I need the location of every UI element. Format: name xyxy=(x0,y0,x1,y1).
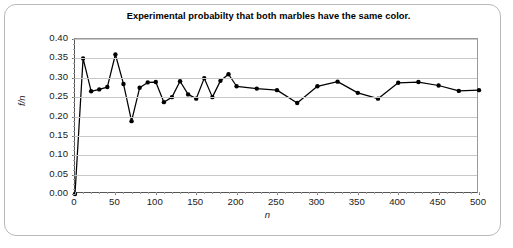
y-axis-minor-tick xyxy=(73,179,75,180)
x-axis-minor-tick xyxy=(99,192,100,194)
y-axis-minor-tick xyxy=(73,175,75,176)
y-axis-tick-label: 0.40 xyxy=(34,32,68,43)
y-axis-minor-tick xyxy=(73,131,75,132)
data-point-marker xyxy=(226,72,230,76)
data-point-marker xyxy=(178,79,182,83)
x-axis-minor-tick xyxy=(253,192,254,194)
y-axis-minor-tick xyxy=(73,44,75,45)
x-axis-tick-label: 500 xyxy=(458,196,498,207)
x-axis-minor-tick xyxy=(220,192,221,194)
x-axis-tick-label: 100 xyxy=(135,196,175,207)
x-axis-minor-tick xyxy=(317,192,318,194)
data-point-marker xyxy=(129,119,133,123)
y-axis-minor-tick xyxy=(73,146,75,147)
x-axis-minor-tick xyxy=(180,192,181,194)
x-axis-minor-tick xyxy=(107,192,108,194)
x-axis-minor-tick xyxy=(148,192,149,194)
x-axis-minor-tick xyxy=(382,192,383,194)
data-point-marker xyxy=(89,89,93,93)
y-axis-minor-tick xyxy=(73,155,75,156)
data-point-marker xyxy=(146,80,150,84)
x-axis-minor-tick xyxy=(164,192,165,194)
y-axis-minor-tick xyxy=(73,73,75,74)
data-point-marker xyxy=(416,80,420,84)
x-axis-tick-label: 350 xyxy=(337,196,377,207)
x-axis-minor-tick xyxy=(366,192,367,194)
data-point-marker xyxy=(457,89,461,93)
x-axis-minor-tick xyxy=(156,192,157,194)
y-axis-minor-tick xyxy=(73,117,75,118)
x-axis-minor-tick xyxy=(342,192,343,194)
y-axis-minor-tick xyxy=(73,92,75,93)
series-line xyxy=(75,55,479,195)
x-axis-minor-tick xyxy=(115,192,116,194)
y-axis-minor-tick xyxy=(73,136,75,137)
gridline xyxy=(75,136,477,137)
chart-title: Experimental probabilty that both marble… xyxy=(0,11,513,21)
y-axis-minor-tick xyxy=(73,160,75,161)
gridline xyxy=(75,117,477,118)
x-axis-tick-label: 450 xyxy=(418,196,458,207)
y-axis-minor-tick xyxy=(73,78,75,79)
x-axis-minor-tick xyxy=(229,192,230,194)
x-axis-title: n xyxy=(0,209,513,220)
y-axis-minor-tick xyxy=(73,39,75,40)
x-axis-minor-tick xyxy=(374,192,375,194)
x-axis-tick-labels: 050100150200250300350400450500 xyxy=(74,196,478,210)
y-axis-minor-tick xyxy=(73,150,75,151)
y-axis-minor-tick xyxy=(73,54,75,55)
y-axis-tick-label: 0.20 xyxy=(34,110,68,121)
y-axis-minor-tick xyxy=(73,68,75,69)
x-axis-tick-label: 400 xyxy=(377,196,417,207)
x-axis-tick-label: 200 xyxy=(216,196,256,207)
x-axis-minor-tick xyxy=(390,192,391,194)
y-axis-tick-labels: 0.000.050.100.150.200.250.300.350.40 xyxy=(28,38,68,193)
gridline xyxy=(75,155,477,156)
data-point-marker xyxy=(396,81,400,85)
data-point-marker xyxy=(186,92,190,96)
x-axis-minor-tick xyxy=(406,192,407,194)
y-axis-title: f/n xyxy=(16,95,27,106)
x-axis-minor-tick xyxy=(188,192,189,194)
data-point-marker xyxy=(137,86,141,90)
x-axis-minor-tick xyxy=(455,192,456,194)
y-axis-minor-tick xyxy=(73,107,75,108)
y-axis-minor-tick xyxy=(73,58,75,59)
data-point-marker xyxy=(154,80,158,84)
x-axis-minor-tick xyxy=(204,192,205,194)
y-axis-tick-label: 0.15 xyxy=(34,129,68,140)
y-axis-minor-tick xyxy=(73,97,75,98)
y-axis-tick-label: 0.35 xyxy=(34,51,68,62)
data-point-marker xyxy=(275,88,279,92)
x-axis-minor-tick xyxy=(261,192,262,194)
chart-container: Experimental probabilty that both marble… xyxy=(0,0,513,248)
x-axis-minor-tick xyxy=(196,192,197,194)
data-point-marker xyxy=(295,101,299,105)
y-axis-minor-tick xyxy=(73,184,75,185)
y-axis-tick-label: 0.25 xyxy=(34,90,68,101)
y-axis-tick-label: 0.10 xyxy=(34,148,68,159)
data-point-marker xyxy=(436,83,440,87)
y-axis-minor-tick xyxy=(73,87,75,88)
y-axis-minor-tick xyxy=(73,112,75,113)
y-axis-tick-label: 0.30 xyxy=(34,71,68,82)
plot-area xyxy=(74,38,478,193)
x-axis-minor-tick xyxy=(269,192,270,194)
x-axis-minor-tick xyxy=(285,192,286,194)
x-axis-minor-tick xyxy=(75,192,76,194)
x-axis-minor-tick xyxy=(245,192,246,194)
y-axis-minor-tick xyxy=(73,170,75,171)
data-point-marker xyxy=(97,87,101,91)
x-axis-tick-label: 300 xyxy=(296,196,336,207)
x-axis-minor-tick xyxy=(83,192,84,194)
y-axis-minor-tick xyxy=(73,126,75,127)
gridline xyxy=(75,78,477,79)
x-axis-minor-tick xyxy=(277,192,278,194)
y-axis-tick-label: 0.05 xyxy=(34,168,68,179)
x-axis-minor-tick xyxy=(422,192,423,194)
x-axis-minor-tick xyxy=(140,192,141,194)
x-axis-minor-tick xyxy=(132,192,133,194)
x-axis-minor-tick xyxy=(479,192,480,194)
data-point-marker xyxy=(105,85,109,89)
y-axis-minor-tick xyxy=(73,165,75,166)
